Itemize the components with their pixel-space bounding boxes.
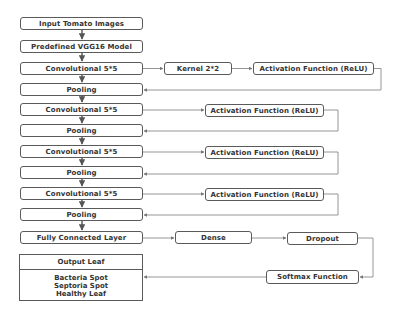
vgg16-model-box: Predefined VGG16 Model [20, 40, 143, 53]
pooling-box-3: Pooling [20, 166, 143, 179]
activation-relu-box-2: Activation Function (ReLU) [205, 104, 324, 117]
softmax-function-box: Softmax Function [266, 270, 359, 284]
input-images-box: Input Tomato Images [20, 17, 143, 30]
pooling-box-2: Pooling [20, 124, 143, 137]
convolutional-box-1: Convolutional 5*5 [20, 62, 143, 75]
convolutional-box-3: Convolutional 5*5 [20, 145, 143, 158]
pooling-box-1: Pooling [20, 83, 143, 96]
output-class-septoria-spot: Septoria Spot [20, 282, 142, 290]
output-class-healthy-leaf: Healthy Leaf [20, 290, 142, 298]
activation-relu-box-1: Activation Function (ReLU) [253, 62, 374, 75]
output-classes-list: Bacteria Spot Septoria Spot Healthy Leaf [20, 270, 142, 298]
output-leaf-box: Output Leaf Bacteria Spot Septoria Spot … [19, 254, 143, 301]
fully-connected-layer-box: Fully Connected Layer [20, 231, 143, 244]
activation-relu-box-4: Activation Function (ReLU) [205, 188, 324, 201]
dropout-box: Dropout [287, 232, 358, 245]
activation-relu-box-3: Activation Function (ReLU) [205, 146, 324, 159]
output-leaf-title: Output Leaf [20, 255, 142, 270]
pooling-box-4: Pooling [20, 208, 143, 221]
convolutional-box-4: Convolutional 5*5 [20, 187, 143, 200]
convolutional-box-2: Convolutional 5*5 [20, 103, 143, 116]
kernel-box: Kernel 2*2 [164, 62, 232, 75]
output-class-bacteria-spot: Bacteria Spot [20, 274, 142, 282]
dense-box: Dense [175, 231, 252, 244]
cnn-architecture-diagram: Input Tomato Images Predefined VGG16 Mod… [0, 0, 396, 317]
